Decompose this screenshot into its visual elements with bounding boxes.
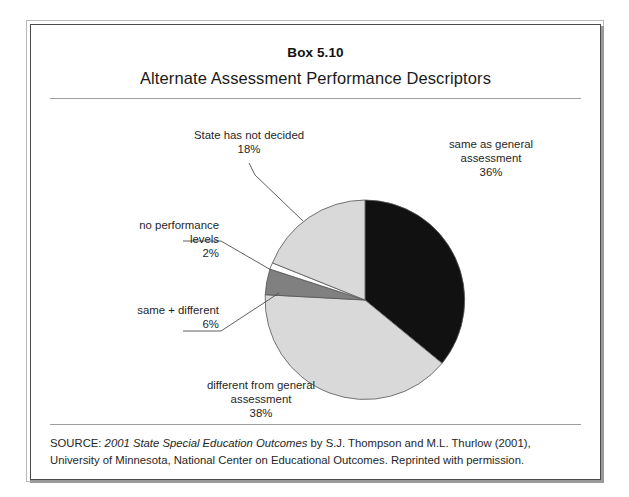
pie-label-same-as-general-value: 36%: [411, 165, 571, 179]
pie-label-same-as-general: same as general assessment 36%: [411, 137, 571, 180]
source-title: 2001 State Special Education Outcomes: [105, 437, 308, 449]
pie-label-no-performance-levels: no performance levels 2%: [79, 218, 219, 261]
figure-border-shadow-bottom: [30, 480, 604, 483]
pie-label-different-from-general: different from general assessment 38%: [171, 378, 351, 421]
divider-bottom: [50, 424, 581, 425]
figure-border-shadow-right: [601, 26, 604, 482]
leader-line-state-has-not-decided: [249, 163, 303, 221]
source-prefix: SOURCE:: [50, 437, 105, 449]
pie-label-no-performance-levels-value: 2%: [79, 246, 219, 260]
pie-label-same-plus-different: same + different 6%: [79, 303, 219, 331]
pie-label-same-plus-different-value: 6%: [79, 317, 219, 331]
source-note: SOURCE: 2001 State Special Education Out…: [50, 435, 583, 468]
pie-label-no-performance-levels-line2: levels: [79, 232, 219, 246]
box-number: Box 5.10: [31, 45, 600, 60]
box-title: Alternate Assessment Performance Descrip…: [31, 69, 600, 88]
figure-root: Box 5.10 Alternate Assessment Performanc…: [0, 0, 629, 497]
pie-chart: State has not decided 18% no performance…: [31, 103, 600, 421]
pie-label-different-from-general-line1: different from general: [171, 378, 351, 392]
pie-label-same-as-general-line2: assessment: [411, 151, 571, 165]
pie-label-no-performance-levels-line1: no performance: [79, 218, 219, 232]
pie-label-different-from-general-value: 38%: [171, 406, 351, 420]
pie-label-state-has-not-decided: State has not decided 18%: [169, 128, 329, 156]
divider-top: [50, 98, 581, 99]
figure-content: Box 5.10 Alternate Assessment Performanc…: [31, 25, 600, 479]
pie-label-different-from-general-line2: assessment: [171, 392, 351, 406]
pie-label-same-as-general-line1: same as general: [411, 137, 571, 151]
pie-label-state-has-not-decided-value: 18%: [169, 142, 329, 156]
pie-label-same-plus-different-text: same + different: [79, 303, 219, 317]
pie-label-state-has-not-decided-text: State has not decided: [169, 128, 329, 142]
